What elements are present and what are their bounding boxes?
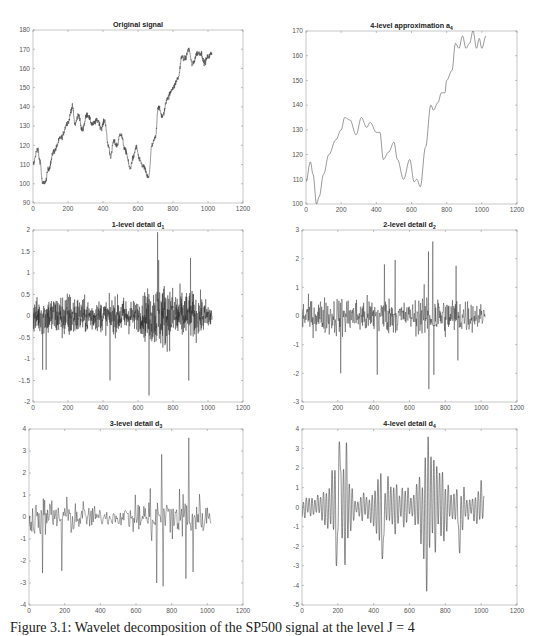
x-tick-label: 800: [441, 206, 452, 213]
subplot-title: 3-level detail d3: [110, 419, 163, 429]
x-tick-label: 200: [332, 404, 343, 411]
subplot-title: Original signal: [113, 20, 163, 29]
x-tick-label: 1000: [201, 205, 216, 212]
y-tick-label: -2: [20, 557, 26, 564]
y-tick-label: 1: [295, 484, 299, 491]
subplot-detail-d1: 020040060080010001200-2-1.5-1-0.500.511.…: [19, 220, 251, 411]
subplot-title: 4-level detail d4: [383, 419, 436, 429]
y-tick-label: -2: [293, 370, 299, 377]
subplot-title: 2-level detail d2: [383, 220, 436, 230]
y-tick-label: 110: [293, 176, 304, 183]
x-tick-label: 1200: [510, 607, 525, 614]
y-tick-label: 2: [26, 226, 30, 233]
y-tick-label: 150: [292, 77, 303, 84]
subplot-detail-d3: 020040060080010001200-4-3-2-1012343-leve…: [20, 419, 250, 614]
y-tick-label: 130: [292, 126, 303, 133]
y-tick-label: 1.5: [21, 248, 30, 255]
x-tick-label: 600: [404, 607, 415, 614]
y-tick-label: 1: [26, 269, 30, 276]
x-tick-label: 0: [31, 205, 35, 212]
y-tick-label: 140: [19, 103, 30, 110]
x-tick-label: 1200: [236, 607, 251, 614]
y-tick-label: -2: [293, 543, 299, 550]
y-tick-label: 170: [19, 46, 30, 53]
subplot-title: 1-level detail d1: [112, 220, 165, 230]
x-tick-label: 200: [59, 607, 70, 614]
x-tick-label: 1200: [236, 205, 251, 212]
y-tick-label: 0: [295, 312, 299, 319]
x-tick-label: 1000: [475, 206, 490, 213]
x-tick-label: 800: [440, 607, 451, 614]
x-tick-label: 1000: [474, 607, 489, 614]
x-tick-label: 1200: [510, 404, 525, 411]
y-tick-label: 3: [22, 447, 26, 454]
x-tick-label: 0: [27, 607, 31, 614]
y-tick-label: -0.5: [19, 334, 31, 341]
x-tick-label: 200: [63, 404, 74, 411]
y-tick-label: 110: [20, 161, 31, 168]
y-tick-label: 180: [19, 26, 30, 33]
y-tick-label: 0: [26, 312, 30, 319]
x-tick-label: 600: [133, 404, 144, 411]
y-tick-label: 120: [292, 151, 303, 158]
subplot-detail-d4: 020040060080010001200-5-4-3-2-1012344-le…: [293, 419, 524, 614]
x-tick-label: 0: [31, 404, 35, 411]
x-tick-label: 1000: [474, 404, 489, 411]
y-tick-label: -4: [20, 601, 26, 608]
y-tick-label: -5: [293, 601, 299, 608]
x-tick-label: 600: [406, 206, 417, 213]
y-tick-label: 140: [292, 101, 303, 108]
y-tick-label: 90: [23, 199, 31, 206]
x-tick-label: 400: [368, 404, 379, 411]
y-tick-label: 160: [19, 65, 30, 72]
y-tick-label: 1: [22, 491, 26, 498]
x-tick-label: 1200: [510, 206, 525, 213]
y-tick-label: -1: [20, 535, 26, 542]
y-tick-label: 170: [292, 27, 303, 34]
y-tick-label: 3: [295, 226, 299, 233]
x-tick-label: 1000: [201, 404, 216, 411]
y-tick-label: 160: [292, 52, 303, 59]
y-tick-label: 150: [19, 84, 30, 91]
y-tick-label: 2: [22, 469, 26, 476]
axes-frame: [33, 30, 243, 203]
x-tick-label: 600: [404, 404, 415, 411]
y-tick-label: -1: [24, 355, 30, 362]
y-tick-label: 3: [295, 445, 299, 452]
x-tick-label: 200: [336, 206, 347, 213]
subplot-title: 4-level approximation a4: [370, 21, 453, 31]
x-tick-label: 400: [371, 206, 382, 213]
x-tick-label: 200: [332, 607, 343, 614]
y-tick-label: 1: [295, 284, 299, 291]
x-tick-label: 0: [300, 404, 304, 411]
y-tick-label: -3: [20, 579, 26, 586]
axes-frame: [306, 31, 517, 204]
axes-frame: [302, 429, 517, 605]
y-tick-label: 4: [295, 425, 299, 432]
y-tick-label: -2: [24, 398, 30, 405]
x-tick-label: 800: [166, 607, 177, 614]
x-tick-label: 800: [168, 404, 179, 411]
x-tick-label: 800: [440, 404, 451, 411]
y-tick-label: 100: [292, 200, 303, 207]
x-tick-label: 0: [304, 206, 308, 213]
subplot-original-signal: 0200400600800100012009010011012013014015…: [19, 20, 250, 212]
x-tick-label: 200: [63, 205, 74, 212]
x-tick-label: 0: [300, 607, 304, 614]
y-tick-label: 100: [19, 180, 30, 187]
y-tick-label: -3: [293, 398, 299, 405]
y-tick-label: 4: [22, 425, 26, 432]
y-tick-label: -4: [293, 582, 299, 589]
x-tick-label: 400: [95, 607, 106, 614]
y-tick-label: 0.5: [21, 291, 30, 298]
subplot-approximation-a4: 0200400600800100012001001101201301401501…: [292, 21, 524, 213]
x-tick-label: 1200: [236, 404, 251, 411]
x-tick-label: 1000: [200, 607, 215, 614]
figure-caption: Figure 3.1: Wavelet decomposition of the…: [10, 620, 540, 636]
subplot-detail-d2: 020040060080010001200-3-2-101232-level d…: [293, 220, 524, 411]
y-tick-label: 130: [19, 122, 30, 129]
y-tick-label: 0: [295, 504, 299, 511]
y-tick-label: -1: [293, 341, 299, 348]
x-tick-label: 400: [98, 205, 109, 212]
